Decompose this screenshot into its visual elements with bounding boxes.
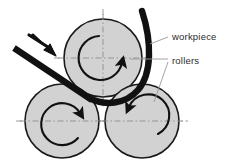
labels-group: workpiece rollers [171,31,217,66]
leader-line-workpiece [150,37,168,44]
label-rollers: rollers [172,55,199,66]
three-roll-bending-diagram: workpiece rollers [0,0,232,164]
label-workpiece: workpiece [171,31,217,42]
feed-direction-arrow [29,34,56,56]
diagram-canvas: workpiece rollers [0,0,232,164]
rollers-group [25,19,179,158]
